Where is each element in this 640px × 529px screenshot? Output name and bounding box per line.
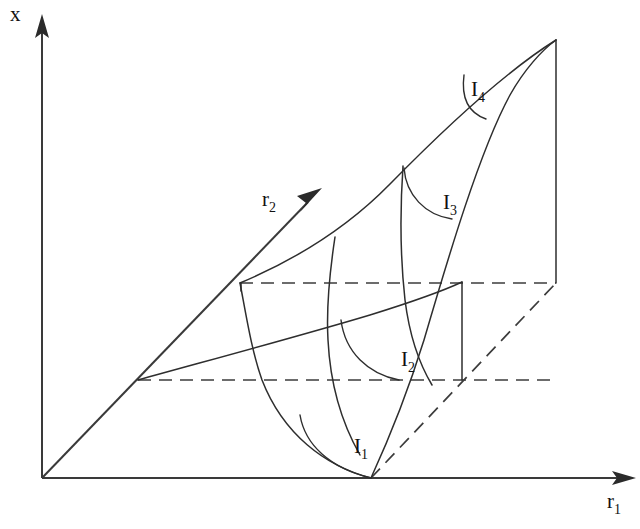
figure-canvas: x r1 r2 I1 I2 I3 I4 <box>0 0 640 529</box>
axes-group <box>35 14 636 485</box>
arc-I2 <box>341 320 399 380</box>
axis-label-r1: r1 <box>607 489 621 517</box>
isoline-label-I1: I1 <box>354 434 368 462</box>
isoline-label-I2: I2 <box>401 347 415 375</box>
labels-group: x r1 r2 I1 I2 I3 I4 <box>10 2 621 517</box>
isoline-label-I4: I4 <box>471 77 485 105</box>
ruling-inner-left <box>327 237 360 455</box>
isoline-arcs <box>300 75 486 478</box>
isoline-label-I3: I3 <box>443 190 457 218</box>
surface-curves <box>138 40 556 478</box>
right-boundary-curve <box>371 40 556 478</box>
axis-label-x: x <box>10 2 21 26</box>
axis-label-r2: r2 <box>262 187 276 215</box>
r2-axis-line <box>42 202 308 478</box>
upper-ridge-curve <box>240 40 556 283</box>
surface-diagram: x r1 r2 I1 I2 I3 I4 <box>0 0 640 529</box>
